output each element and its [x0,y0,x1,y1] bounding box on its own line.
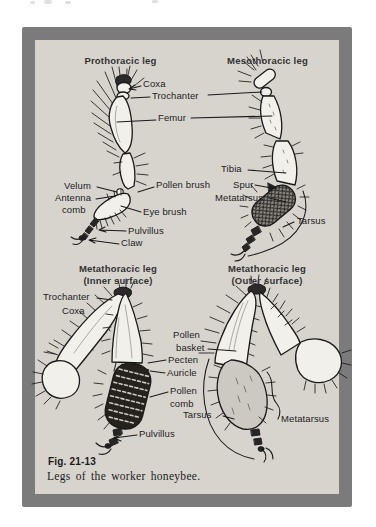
figure-number: Fig. 21-13 [48,456,96,467]
label-antenna-comb-line2: comb [62,205,86,216]
title-line: Metathoracic leg [212,263,322,275]
label-tarsus-middle: Tarsus [297,216,326,227]
label-pollen-comb-line1: Pollen [170,386,197,397]
cropped-text-remnant [152,0,158,3]
label-auricle: Auricle [167,368,197,379]
title-line: (Inner surface) [63,275,173,287]
label-femur: Femur [158,113,186,124]
label-tarsus-hind: Tarsus [183,410,212,421]
label-eye-brush: Eye brush [143,207,187,218]
label-pulvillus-hind: Pulvillus [139,429,175,440]
label-tibia: Tibia [221,164,242,175]
label-metatarsus-middle: Metatarsus [215,193,263,204]
label-trochanter-hind: Trochanter [43,292,90,303]
label-coxa-hind: Coxa [62,306,85,317]
label-trochanter-front: Trochanter [152,91,199,102]
cropped-text-remnant [65,1,71,4]
label-pulvillus-front: Pulvillus [128,226,164,237]
label-antenna-comb-line1: Antenna [55,193,91,204]
label-pollen-brush: Pollen brush [156,180,210,191]
title-metathoracic-inner: Metathoracic leg (Inner surface) [63,263,173,287]
label-spur: Spur [233,180,253,191]
title-line: (Outer surface) [212,275,322,287]
label-pollen-basket-line2: basket [176,343,205,354]
label-pecten: Pecten [168,355,198,366]
cropped-text-remnant [44,0,52,4]
label-metatarsus-hind: Metatarsus [281,414,329,425]
title-prothoracic-leg: Prothoracic leg [68,55,173,67]
label-claw: Claw [121,238,143,249]
label-pollen-basket-line1: Pollen [173,330,200,341]
label-velum: Velum [64,181,91,192]
scanned-figure-page: Prothoracic leg Mesothoracic leg Metatho… [0,0,376,527]
label-coxa-front: Coxa [143,79,166,90]
figure-caption: Legs of the worker honeybee. [47,470,200,482]
title-metathoracic-outer: Metathoracic leg (Outer surface) [212,263,322,287]
title-mesothoracic-leg: Mesothoracic leg [215,55,320,67]
title-line: Metathoracic leg [63,263,173,275]
cropped-text-remnant [30,1,35,4]
